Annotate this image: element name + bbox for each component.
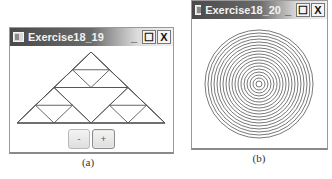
minimize-icon[interactable]: _ xyxy=(281,3,295,17)
close-icon[interactable]: X xyxy=(311,3,325,17)
java-app-icon xyxy=(195,5,201,15)
maximize-icon[interactable]: ☐ xyxy=(296,3,310,17)
caption-b: (b) xyxy=(244,152,274,164)
window-controls: _ ☐ X xyxy=(281,3,325,17)
window-title: Exercise18_20 xyxy=(205,4,281,16)
window-exercise18-20: Exercise18_20 _ ☐ X xyxy=(191,0,328,150)
caption-a: (a) xyxy=(73,156,103,168)
title-bar[interactable]: Exercise18_20 _ ☐ X xyxy=(192,1,327,19)
